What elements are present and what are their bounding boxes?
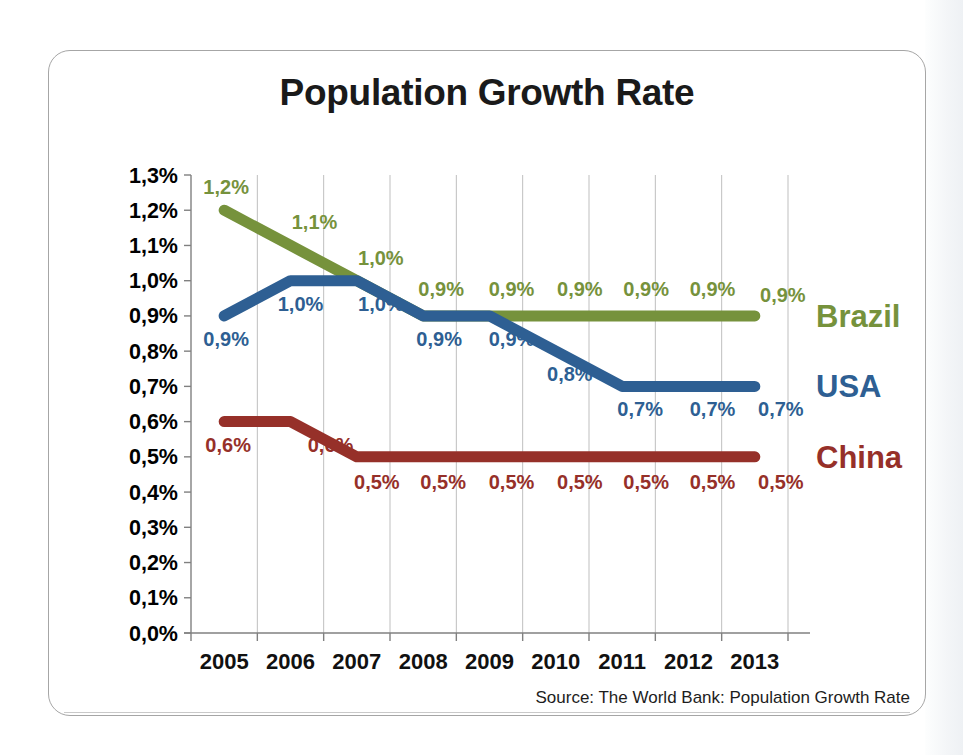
data-label-china: 0,5% [489, 471, 535, 493]
source-divider [64, 712, 910, 713]
data-label-brazil: 0,9% [760, 284, 806, 306]
data-label-china: 0,5% [354, 471, 400, 493]
y-axis-tick-label: 0,0% [129, 622, 178, 646]
data-label-brazil: 0,9% [489, 278, 535, 300]
x-axis-tick-label: 2010 [531, 649, 580, 674]
data-label-china: 0,5% [420, 471, 466, 493]
y-axis-tick-label: 1,0% [129, 269, 178, 293]
y-axis-tick-label: 0,7% [129, 375, 178, 399]
y-axis: 1,3%1,2%1,1%1,0%0,9%0,8%0,7%0,6%0,5%0,4%… [129, 164, 191, 646]
x-axis-tick-label: 2008 [399, 649, 448, 674]
slide-right-edge-band [925, 0, 963, 755]
population-growth-line-chart: 1,3%1,2%1,1%1,0%0,9%0,8%0,7%0,6%0,5%0,4%… [48, 50, 926, 716]
data-label-china: 0,6% [205, 434, 251, 456]
y-axis-tick-label: 1,2% [129, 199, 178, 223]
data-label-brazil: 0,9% [418, 278, 464, 300]
data-label-brazil: 1,1% [292, 211, 338, 233]
x-axis-tick-label: 2011 [598, 649, 646, 674]
data-label-usa: 1,0% [278, 293, 324, 315]
data-label-china: 0,5% [758, 471, 804, 493]
data-label-brazil: 1,0% [358, 247, 404, 269]
data-label-china: 0,5% [690, 471, 736, 493]
data-label-usa: 0,7% [617, 398, 663, 420]
y-axis-tick-label: 1,1% [129, 234, 178, 258]
y-axis-tick-label: 0,1% [129, 586, 178, 610]
data-label-china: 0,6% [308, 434, 354, 456]
source-note: Source: The World Bank: Population Growt… [48, 688, 910, 708]
y-axis-tick-label: 0,9% [129, 304, 178, 328]
data-label-usa: 0,7% [758, 398, 804, 420]
y-axis-tick-label: 0,5% [129, 445, 178, 469]
data-label-brazil: 0,9% [623, 278, 669, 300]
x-axis-tick-label: 2007 [332, 649, 381, 674]
series-legend-labels: BrazilUSAChina [816, 299, 903, 475]
series-line-china [224, 422, 755, 457]
x-axis-tick-label: 2005 [200, 649, 249, 674]
y-axis-tick-label: 0,3% [129, 516, 178, 540]
series-label-usa: USA [816, 369, 881, 404]
data-label-china: 0,5% [557, 471, 603, 493]
data-label-china: 0,5% [623, 471, 669, 493]
series-label-brazil: Brazil [816, 299, 900, 334]
data-label-usa: 0,9% [203, 328, 249, 350]
y-axis-tick-label: 1,3% [129, 164, 178, 188]
data-label-usa: 0,9% [489, 328, 535, 350]
data-label-brazil: 0,9% [557, 278, 603, 300]
x-axis-tick-label: 2013 [730, 649, 779, 674]
data-label-usa: 0,7% [690, 398, 736, 420]
y-axis-tick-label: 0,8% [129, 340, 178, 364]
series-label-china: China [816, 440, 903, 475]
x-axis-tick-label: 2006 [266, 649, 315, 674]
y-axis-tick-label: 0,2% [129, 551, 178, 575]
y-axis-tick-label: 0,6% [129, 410, 178, 434]
y-axis-tick-label: 0,4% [129, 481, 178, 505]
data-label-brazil: 1,2% [203, 176, 249, 198]
x-axis-tick-label: 2012 [664, 649, 713, 674]
data-labels: 1,2%1,1%1,0%0,9%0,9%0,9%0,9%0,9%0,9%0,9%… [203, 176, 805, 493]
data-label-usa: 1,0% [358, 293, 404, 315]
data-label-usa: 0,8% [547, 363, 593, 385]
x-axis-tick-label: 2009 [465, 649, 514, 674]
data-label-usa: 0,9% [416, 328, 462, 350]
data-label-brazil: 0,9% [690, 278, 736, 300]
x-axis: 200520062007200820092010201120122013 [184, 633, 810, 674]
